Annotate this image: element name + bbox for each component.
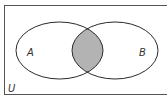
set-b-label: B bbox=[139, 47, 146, 58]
venn-diagram: A B U bbox=[0, 0, 167, 103]
set-a-label: A bbox=[26, 47, 34, 58]
universe-label: U bbox=[8, 83, 16, 94]
